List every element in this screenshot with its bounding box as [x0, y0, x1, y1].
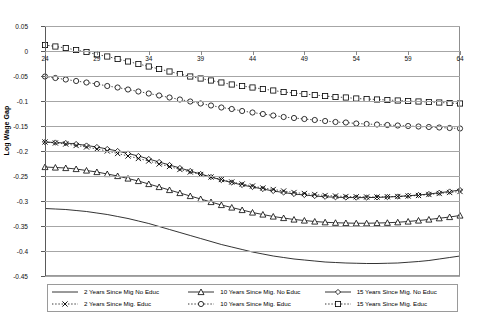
y-axis-title: Log Wage Gap — [3, 101, 10, 161]
legend-item[interactable]: 10 Years Since Mig. No Educ — [184, 286, 320, 298]
y-tick — [41, 226, 45, 227]
legend-label: 2 Years Since Mig. Educ — [82, 298, 151, 310]
legend-label: 10 Years Since Mig. Educ — [218, 298, 291, 310]
y-tick-label: -0.25 — [0, 173, 28, 180]
gridline — [45, 101, 460, 102]
legend-key-square-icon — [321, 298, 355, 310]
chart-legend: 2 Years Since Mig No Educ10 Years Since … — [47, 284, 458, 312]
y-tick — [41, 201, 45, 202]
legend-key-circle-icon — [184, 298, 218, 310]
x-tick-label: 34 — [139, 55, 159, 62]
legend-key-diamond-icon — [321, 286, 355, 298]
gridline — [45, 226, 460, 227]
x-tick-label: 29 — [87, 55, 107, 62]
gridline — [45, 251, 460, 252]
x-tick-label: 64 — [450, 55, 470, 62]
gridline — [45, 126, 460, 127]
legend-key-triangle-icon — [184, 286, 218, 298]
legend-item[interactable]: 15 Years Since Mig. No Educ — [321, 286, 457, 298]
y-tick-label: 0.05 — [0, 23, 28, 30]
marker-circle — [199, 301, 204, 306]
y-tick — [41, 76, 45, 77]
y-tick-label: -0.45 — [0, 273, 28, 280]
legend-label: 2 Years Since Mig No Educ — [82, 286, 159, 298]
y-tick — [41, 101, 45, 102]
gridline — [45, 26, 460, 27]
legend-label: 15 Years Since Mig. Educ — [355, 298, 428, 310]
x-tick-label: 44 — [243, 55, 263, 62]
y-tick-label: -0.4 — [0, 248, 28, 255]
y-tick-label: 0 — [0, 48, 28, 55]
gridline — [45, 151, 460, 152]
y-tick — [41, 26, 45, 27]
legend-item[interactable]: 15 Years Since Mig. Educ — [321, 298, 457, 310]
legend-key-x-icon — [48, 298, 82, 310]
gridline — [45, 201, 460, 202]
x-tick-label: 54 — [346, 55, 366, 62]
plot-area — [45, 26, 460, 276]
legend-label: 10 Years Since Mig. No Educ — [218, 286, 300, 298]
legend-item[interactable]: 2 Years Since Mig No Educ — [48, 286, 184, 298]
y-tick — [41, 251, 45, 252]
x-tick-label: 24 — [35, 55, 55, 62]
y-tick-label: -0.05 — [0, 73, 28, 80]
marker-square — [335, 301, 340, 306]
y-tick — [41, 276, 45, 277]
marker-diamond — [335, 289, 340, 294]
gridline — [45, 176, 460, 177]
legend-label: 15 Years Since Mig. No Educ — [355, 286, 437, 298]
gridline — [45, 276, 460, 277]
x-tick-label: 49 — [294, 55, 314, 62]
y-tick — [41, 151, 45, 152]
chart-container: 0.050-0.05-0.1-0.15-0.2-0.25-0.3-0.35-0.… — [0, 0, 490, 322]
y-tick — [41, 176, 45, 177]
y-tick — [41, 126, 45, 127]
marker-x — [62, 301, 67, 306]
x-tick-label: 39 — [191, 55, 211, 62]
legend-item[interactable]: 2 Years Since Mig. Educ — [48, 298, 184, 310]
legend-key-none-icon — [48, 286, 82, 298]
gridline — [45, 76, 460, 77]
y-tick-label: -0.35 — [0, 223, 28, 230]
x-tick-label: 59 — [398, 55, 418, 62]
y-tick-label: -0.3 — [0, 198, 28, 205]
legend-item[interactable]: 10 Years Since Mig. Educ — [184, 298, 320, 310]
